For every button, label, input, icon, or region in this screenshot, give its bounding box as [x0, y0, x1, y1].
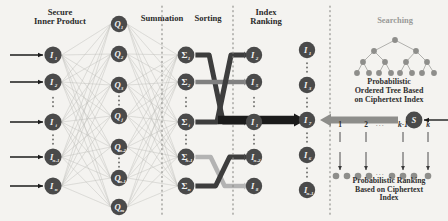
ranking-label-4: k [416, 120, 440, 129]
summation-node-σ-n-1: Σn-1 [178, 149, 195, 166]
edges-input-to-query [62, 24, 111, 207]
svg-text:I: I [49, 77, 54, 87]
header-secure-inner-product: Secure Inner Product [12, 8, 108, 27]
input-node-i-n-1: In-1 [44, 148, 61, 165]
svg-text:I: I [303, 115, 308, 125]
tree-root-node [392, 37, 398, 43]
svg-text:Σ: Σ [182, 50, 188, 60]
svg-text:Q: Q [114, 80, 120, 90]
svg-text:Σ: Σ [182, 77, 188, 87]
input-node-i-1: I1 [44, 46, 61, 63]
svg-text:1: 1 [55, 56, 58, 61]
query-node-q-j: Qj [111, 108, 127, 124]
svg-text:m-2: m-2 [118, 148, 127, 153]
svg-text:m: m [120, 208, 124, 213]
result-node-i-6: I6 [299, 147, 315, 163]
tree-edge [374, 40, 395, 51]
summation-node-σ-n: Σn [178, 178, 195, 195]
svg-text:Q: Q [114, 19, 120, 29]
svg-text:I: I [303, 45, 308, 55]
tree-level3-node-1 [360, 59, 366, 65]
input-node-i-n: In [44, 177, 61, 194]
input-ellipsis-2 [52, 134, 54, 144]
result-node-i-3: I3 [299, 77, 315, 93]
tree-level2-node-2 [413, 48, 419, 54]
input-node-i-i: Ii [44, 113, 61, 130]
svg-text:Σ: Σ [182, 117, 188, 127]
query-ellipsis-4 [118, 157, 120, 167]
tree-edge [395, 40, 416, 51]
tree-level3-node-4 [424, 59, 430, 65]
svg-text:3: 3 [308, 86, 312, 91]
svg-text:2: 2 [120, 55, 124, 60]
input-ellipsis-1 [52, 97, 54, 107]
ranking-dots-ellipsis: ··· [368, 170, 392, 179]
svg-text:I: I [49, 181, 54, 191]
svg-text:m-1: m-1 [118, 179, 126, 184]
svg-text:I: I [49, 50, 54, 60]
tree-leaf-node-1 [354, 70, 360, 76]
svg-text:I: I [49, 117, 54, 127]
tree-level3-node-3 [403, 59, 409, 65]
svg-text:1: 1 [256, 123, 259, 128]
svg-text:Σ: Σ [182, 181, 188, 191]
header-searching: Searching [355, 16, 435, 25]
ranking-node-i-2: I2 [246, 47, 262, 63]
svg-text:n-1: n-1 [307, 191, 314, 196]
ranking-label-1: 1 [328, 120, 352, 129]
ranking-ellipsis-2 [253, 134, 255, 144]
sorting-ribbon-3 [195, 55, 244, 122]
tree-graphic [354, 37, 437, 76]
svg-text:Q: Q [114, 111, 120, 121]
ranking-ellipsis-1 [253, 97, 255, 107]
result-ellipsis-1 [306, 97, 308, 107]
caption-probabilistic-ordered-tree: Probabilistic Ordered Tree Based on Ciph… [330, 78, 448, 105]
summation-node-σ-2: Σ2 [178, 74, 195, 91]
tree-leaf-node-2 [366, 70, 372, 76]
query-node-q-m-1: Qm-1 [111, 170, 127, 186]
svg-text:I: I [303, 80, 308, 90]
summation-ellipsis-2 [185, 134, 187, 144]
svg-text:2: 2 [255, 56, 259, 61]
ranking-label-3: k-1 [391, 120, 415, 129]
result-node-i-n-1: In-1 [299, 182, 315, 198]
query-node-q-m: Qm [111, 199, 127, 215]
tree-leaf-node-3 [376, 70, 382, 76]
svg-text:Q: Q [114, 49, 120, 59]
result-node-i-1: I1 [299, 42, 315, 58]
input-node-i-2: I2 [44, 73, 61, 90]
ranking-node-i-5: I5 [246, 74, 262, 90]
result-node-i-7: I7 [299, 112, 315, 128]
tree-leaf-node-5 [397, 70, 403, 76]
svg-text:n-1: n-1 [186, 158, 193, 163]
header-sorting: Sorting [172, 14, 244, 23]
svg-text:1: 1 [121, 25, 124, 30]
result-ellipsis-0 [306, 62, 308, 72]
svg-text:I: I [303, 150, 308, 160]
header-index-ranking: Index Ranking [235, 8, 297, 27]
svg-text:n-1: n-1 [53, 158, 60, 163]
result-ellipsis-3 [306, 167, 308, 177]
summation-node-σ-i: Σi [178, 114, 195, 131]
svg-text:n: n [55, 187, 58, 192]
svg-text:I: I [250, 181, 255, 191]
svg-text:3: 3 [120, 86, 124, 91]
tree-leaf-node-6 [409, 70, 415, 76]
ranking-label-ellipsis: ··· [368, 121, 392, 130]
svg-text:1: 1 [188, 56, 191, 61]
svg-text:I: I [250, 117, 255, 127]
tree-leaf-node-8 [431, 70, 437, 76]
tree-leaf-node-4 [388, 70, 394, 76]
tree-level2-node-1 [371, 48, 377, 54]
svg-text:I: I [250, 50, 255, 60]
svg-text:1: 1 [309, 51, 312, 56]
svg-text:I: I [250, 77, 255, 87]
svg-text:2: 2 [54, 83, 58, 88]
query-node-q-m-2: Qm-2 [111, 139, 127, 155]
svg-text:2: 2 [187, 83, 191, 88]
figure-canvas: I1I2IiIn-1InQ1Q2Q3QjQm-2Qm-1QmΣ1Σ2ΣiΣn-1… [0, 0, 448, 221]
caption-probabilistic-ranking: Probabilistic Ranking Based on Ciphertex… [330, 177, 448, 203]
main-flow-arrow [218, 113, 306, 126]
svg-text:n-2: n-2 [254, 158, 261, 163]
svg-text:n: n [188, 187, 191, 192]
